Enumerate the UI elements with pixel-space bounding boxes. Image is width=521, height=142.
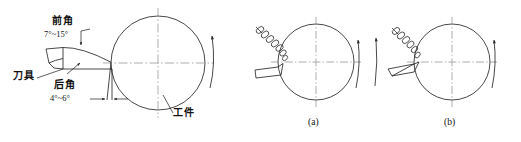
caption-a: (a) [308, 118, 319, 128]
diagram-b-group [375, 17, 497, 107]
rotation-arrow-a [356, 40, 359, 88]
centerline-group-main [103, 8, 213, 118]
diagram-vector-layer [0, 0, 521, 142]
centerline-group-a [271, 17, 361, 107]
workpiece-label: 工件 [173, 108, 194, 119]
rake-angle-title: 前角 [52, 16, 73, 27]
rotation-arrow-b-left [375, 38, 377, 86]
clearance-angle-leader [67, 63, 80, 74]
workpiece-label-leader [163, 95, 173, 113]
coiled-chip-b [391, 26, 421, 59]
rotation-arrow-b-right [492, 40, 495, 88]
clearance-angle-title: 后角 [54, 80, 75, 91]
rake-angle-value: 7°~15° [44, 30, 68, 39]
tool-label: 刀具 [13, 71, 34, 82]
clearance-angle-value: 4°~6° [50, 94, 70, 103]
figure-canvas: 前角 7°~15° 后角 4°~6° 刀具 工件 (a) (b) [0, 0, 521, 142]
centerline-group-b [407, 17, 497, 107]
tool-label-leader [37, 69, 63, 78]
caption-b: (b) [444, 118, 455, 128]
coiled-chip-a [255, 25, 289, 61]
rotation-arrow-main [210, 36, 214, 88]
diagram-a-group [255, 17, 361, 107]
rake-angle-leader [81, 29, 90, 45]
